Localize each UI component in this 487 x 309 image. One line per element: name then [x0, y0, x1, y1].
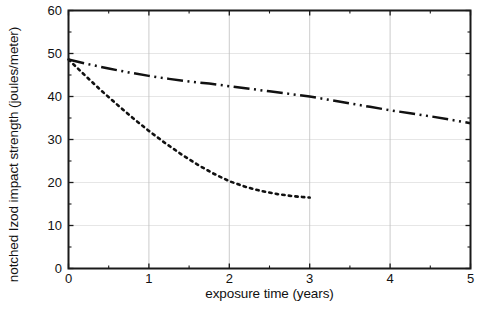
y-tick-label: 50 — [36, 47, 62, 60]
data-series-layer — [69, 60, 471, 198]
y-tick-label: 10 — [36, 219, 62, 232]
y-tick-label: 60 — [36, 4, 62, 17]
chart-container: notched Izod impact strength (joules/met… — [0, 0, 487, 309]
x-axis-title: exposure time (years) — [68, 286, 471, 301]
y-tick-label: 30 — [36, 133, 62, 146]
plot-area — [0, 0, 487, 309]
y-axis-title: notched Izod impact strength (joules/met… — [0, 0, 26, 309]
gridlines — [69, 11, 471, 269]
x-tick-label: 4 — [376, 272, 404, 285]
x-tick-label: 1 — [135, 272, 163, 285]
x-tick-label: 5 — [457, 272, 485, 285]
x-tick-label: 3 — [296, 272, 324, 285]
y-tick-label: 20 — [36, 176, 62, 189]
x-tick-label: 0 — [55, 272, 83, 285]
y-tick-label: 40 — [36, 90, 62, 103]
x-tick-label: 2 — [215, 272, 243, 285]
